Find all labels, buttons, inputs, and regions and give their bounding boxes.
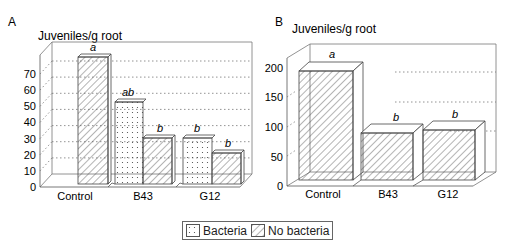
svg-text:b: b — [157, 122, 163, 134]
svg-text:ab: ab — [122, 86, 134, 98]
svg-text:40: 40 — [24, 116, 36, 128]
bar-a-g12-bacteria: b — [183, 122, 215, 184]
panel-label-a: A — [8, 15, 16, 29]
svg-text:30: 30 — [24, 133, 36, 145]
figure: A Juveniles/g root 0 10 20 — [0, 0, 511, 247]
svg-text:60: 60 — [24, 84, 36, 96]
svg-text:0: 0 — [277, 180, 283, 192]
bar-b-g12-no-bacteria: b — [423, 108, 485, 180]
bar-a-g12-no-bacteria: b — [212, 137, 244, 184]
svg-text:200: 200 — [265, 62, 283, 74]
legend-item-bacteria: Bacteria — [186, 224, 247, 238]
svg-text:b: b — [225, 137, 231, 149]
x-labels-b: Control B43 G12 — [305, 188, 458, 200]
svg-text:Control: Control — [305, 188, 340, 200]
svg-text:70: 70 — [24, 68, 36, 80]
svg-text:a: a — [90, 41, 96, 53]
svg-text:B43: B43 — [133, 190, 153, 202]
svg-text:b: b — [194, 122, 200, 134]
svg-text:100: 100 — [265, 121, 283, 133]
bar-b-b43-no-bacteria: b — [361, 111, 423, 180]
y-ticks-b: 0 50 100 150 200 — [265, 62, 283, 192]
svg-text:G12: G12 — [200, 190, 221, 202]
chart-b: B Juveniles/g root 0 50 100 150 200 — [265, 15, 496, 200]
svg-text:Control: Control — [57, 190, 92, 202]
chart-a: A Juveniles/g root 0 10 20 — [8, 15, 252, 202]
bar-a-b43-no-bacteria: b — [143, 122, 175, 184]
svg-text:G12: G12 — [438, 188, 459, 200]
svg-text:50: 50 — [24, 100, 36, 112]
svg-text:a: a — [329, 48, 335, 60]
svg-text:b: b — [452, 108, 458, 120]
legend: Bacteria No bacteria — [182, 221, 333, 240]
svg-text:20: 20 — [24, 149, 36, 161]
svg-text:b: b — [393, 111, 399, 123]
bar-a-b43-bacteria: ab — [115, 86, 146, 184]
bar-a-control-no-bacteria: a — [78, 41, 111, 184]
dots-pattern-icon — [186, 224, 200, 237]
svg-text:50: 50 — [271, 151, 283, 163]
bar-b-control-no-bacteria: a — [299, 48, 363, 180]
panel-label-b: B — [275, 15, 283, 29]
y-ticks-a: 0 10 20 30 40 50 60 70 — [24, 68, 36, 193]
svg-text:0: 0 — [30, 181, 36, 193]
y-axis-title-a: Juveniles/g root — [38, 29, 123, 43]
x-labels-a: Control B43 G12 — [57, 190, 220, 202]
y-axis-title-b: Juveniles/g root — [292, 22, 377, 36]
svg-text:10: 10 — [24, 165, 36, 177]
svg-text:B43: B43 — [378, 188, 398, 200]
svg-text:150: 150 — [265, 91, 283, 103]
hatch-pattern-icon — [251, 224, 265, 237]
legend-item-no-bacteria: No bacteria — [251, 224, 329, 238]
